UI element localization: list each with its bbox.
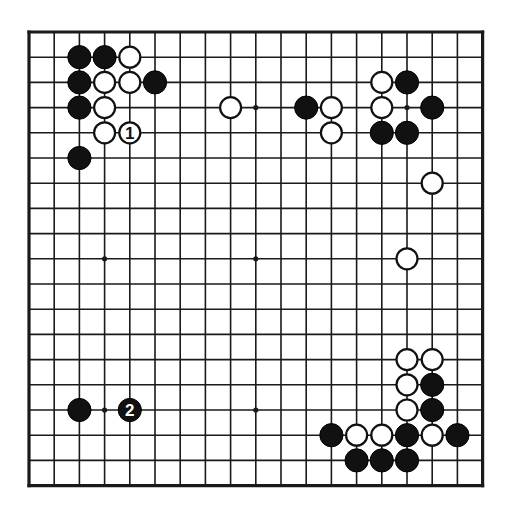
black-stone[interactable] bbox=[395, 71, 418, 94]
stone-disc[interactable] bbox=[371, 425, 392, 446]
stone-disc[interactable] bbox=[321, 97, 342, 118]
white-stone[interactable] bbox=[397, 349, 418, 370]
black-stone[interactable] bbox=[421, 96, 444, 119]
white-stone[interactable] bbox=[397, 374, 418, 395]
black-stone[interactable] bbox=[68, 146, 91, 169]
stone-disc[interactable] bbox=[345, 449, 368, 472]
black-stone[interactable] bbox=[395, 121, 418, 144]
stone-disc[interactable] bbox=[370, 121, 393, 144]
stone-disc[interactable] bbox=[397, 248, 418, 269]
stone-disc[interactable] bbox=[68, 146, 91, 169]
stone-disc[interactable] bbox=[295, 96, 318, 119]
star-point bbox=[253, 105, 258, 110]
white-stone[interactable] bbox=[371, 425, 392, 446]
stone-disc[interactable] bbox=[68, 46, 91, 69]
stone-disc[interactable] bbox=[93, 46, 116, 69]
stone-disc[interactable] bbox=[397, 400, 418, 421]
white-stone[interactable] bbox=[220, 97, 241, 118]
white-stone[interactable] bbox=[321, 97, 342, 118]
stone-disc[interactable] bbox=[119, 47, 140, 68]
star-point bbox=[404, 105, 409, 110]
go-board[interactable]: 12 bbox=[0, 0, 508, 527]
white-stone[interactable] bbox=[397, 400, 418, 421]
white-stone[interactable] bbox=[94, 122, 115, 143]
white-stone[interactable] bbox=[119, 72, 140, 93]
black-stone[interactable] bbox=[295, 96, 318, 119]
white-stone[interactable] bbox=[422, 173, 443, 194]
white-stone[interactable] bbox=[346, 425, 367, 446]
black-stone[interactable] bbox=[395, 449, 418, 472]
stone-disc[interactable] bbox=[321, 122, 342, 143]
stone-disc[interactable] bbox=[346, 425, 367, 446]
white-stone[interactable] bbox=[371, 97, 392, 118]
stone-disc[interactable] bbox=[94, 97, 115, 118]
star-point bbox=[253, 407, 258, 412]
stone-disc[interactable] bbox=[371, 72, 392, 93]
stone-disc[interactable] bbox=[395, 71, 418, 94]
star-point bbox=[102, 407, 107, 412]
black-stone[interactable] bbox=[93, 46, 116, 69]
stone-disc[interactable] bbox=[421, 96, 444, 119]
white-stone[interactable] bbox=[371, 72, 392, 93]
stone-disc[interactable] bbox=[68, 71, 91, 94]
black-stone[interactable] bbox=[143, 71, 166, 94]
stone-disc[interactable] bbox=[395, 449, 418, 472]
stone-disc[interactable] bbox=[320, 424, 343, 447]
stone-disc[interactable] bbox=[422, 173, 443, 194]
stone-disc[interactable] bbox=[370, 449, 393, 472]
go-diagram-page: 12 bbox=[0, 0, 508, 527]
stone-disc[interactable] bbox=[446, 424, 469, 447]
black-stone[interactable] bbox=[68, 96, 91, 119]
white-stone[interactable] bbox=[321, 122, 342, 143]
black-stone[interactable] bbox=[395, 424, 418, 447]
stone-disc[interactable] bbox=[94, 122, 115, 143]
stone-disc[interactable] bbox=[68, 96, 91, 119]
stone-disc[interactable] bbox=[422, 349, 443, 370]
stone-disc[interactable] bbox=[422, 425, 443, 446]
go-board-svg[interactable]: 12 bbox=[0, 0, 508, 527]
star-point bbox=[253, 256, 258, 261]
stone-disc[interactable] bbox=[395, 424, 418, 447]
white-stone[interactable] bbox=[94, 72, 115, 93]
white-stone[interactable] bbox=[94, 97, 115, 118]
stone-disc[interactable] bbox=[421, 398, 444, 421]
stone-disc[interactable] bbox=[421, 373, 444, 396]
black-stone[interactable] bbox=[68, 398, 91, 421]
black-stone[interactable] bbox=[68, 71, 91, 94]
stone-disc[interactable] bbox=[94, 72, 115, 93]
white-stone[interactable] bbox=[119, 47, 140, 68]
white-stone[interactable] bbox=[397, 248, 418, 269]
stone-disc[interactable] bbox=[371, 97, 392, 118]
black-stone[interactable] bbox=[370, 121, 393, 144]
stone-disc[interactable] bbox=[143, 71, 166, 94]
black-stone[interactable] bbox=[68, 46, 91, 69]
move-number-label: 1 bbox=[125, 124, 134, 143]
black-stone[interactable] bbox=[370, 449, 393, 472]
black-stone[interactable] bbox=[446, 424, 469, 447]
white-stone[interactable] bbox=[422, 425, 443, 446]
stone-disc[interactable] bbox=[220, 97, 241, 118]
black-stone[interactable] bbox=[421, 373, 444, 396]
white-stone[interactable] bbox=[422, 349, 443, 370]
stone-disc[interactable] bbox=[68, 398, 91, 421]
move-number-label: 2 bbox=[125, 401, 134, 420]
star-point bbox=[102, 256, 107, 261]
black-stone[interactable]: 2 bbox=[118, 398, 141, 421]
black-stone[interactable] bbox=[320, 424, 343, 447]
white-stone[interactable]: 1 bbox=[119, 122, 140, 143]
black-stone[interactable] bbox=[345, 449, 368, 472]
stone-disc[interactable] bbox=[397, 349, 418, 370]
stone-disc[interactable] bbox=[395, 121, 418, 144]
stone-disc[interactable] bbox=[397, 374, 418, 395]
black-stone[interactable] bbox=[421, 398, 444, 421]
stone-disc[interactable] bbox=[119, 72, 140, 93]
